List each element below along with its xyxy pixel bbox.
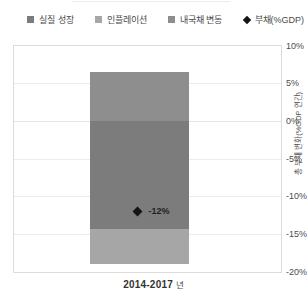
- legend-square-icon: [95, 16, 102, 23]
- y-tick--20: -20%: [286, 268, 307, 277]
- y-tick--15: -15%: [286, 230, 307, 239]
- legend: 실질 성장인플레이션내국채 변동부채(%GDP): [27, 13, 304, 26]
- legend-label: 내국채 변동: [180, 13, 223, 26]
- legend-item-2: 인플레이션: [95, 13, 147, 26]
- top-crop-line: [72, 1, 230, 2]
- y-tick--10: -10%: [286, 192, 307, 201]
- y-tick-5: 5%: [286, 79, 299, 88]
- legend-label: 인플레이션: [107, 13, 147, 26]
- bar-segment-3: [90, 72, 189, 121]
- legend-square-icon: [168, 16, 175, 23]
- legend-label: 부채(%GDP): [255, 13, 305, 26]
- y-tick--5: -5%: [286, 155, 302, 164]
- legend-square-icon: [27, 16, 34, 23]
- legend-item-3: 내국채 변동: [168, 13, 223, 26]
- chart-container: 실질 성장인플레이션내국채 변동부채(%GDP) -12% 총 부채 변화(%G…: [0, 0, 307, 301]
- x-axis-label: 2014-2017 년: [0, 279, 307, 291]
- bar-segment-2: [90, 229, 189, 264]
- legend-diamond-icon: [242, 15, 250, 23]
- legend-label: 실질 성장: [39, 13, 74, 26]
- x-axis-label-years: 2014-2017: [123, 279, 173, 290]
- diamond-icon: [132, 207, 142, 217]
- debt-marker-value: -12%: [149, 207, 170, 216]
- legend-item-1: 실질 성장: [27, 13, 74, 26]
- legend-item-debt: 부채(%GDP): [244, 13, 305, 26]
- y-tick-10: 10%: [286, 42, 304, 51]
- y-tick-0: 0%: [286, 117, 299, 126]
- plot-area: -12%: [13, 45, 282, 273]
- debt-marker-group: -12%: [134, 207, 170, 216]
- x-axis-label-unit: 년: [176, 280, 184, 290]
